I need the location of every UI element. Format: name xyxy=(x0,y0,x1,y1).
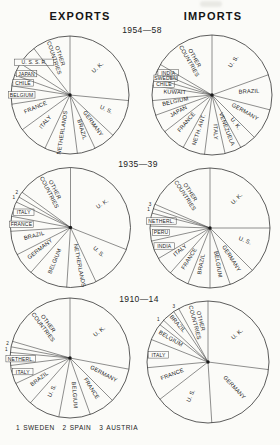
slice-3: 3 xyxy=(149,202,152,207)
slice-label: FRANCE xyxy=(83,376,101,400)
legend-item-austria: 3AUSTRIA xyxy=(99,424,138,431)
slice-kuwait: KUWAIT xyxy=(163,88,186,95)
slice-label: CHILE xyxy=(156,81,172,87)
slice-germany: GERMANY xyxy=(222,374,247,400)
slice-label: U. K. xyxy=(95,197,110,210)
slice-label: U. K. xyxy=(230,192,244,206)
legend-num: 2 xyxy=(63,424,67,431)
slice-othercountries: OTHERCOUNTRIES xyxy=(178,41,206,77)
slice-label: GERMANY xyxy=(222,374,247,400)
slice-label: U. S. xyxy=(185,388,196,403)
legend-label: SPAIN xyxy=(70,424,92,431)
slice-germany: GERMANY xyxy=(89,364,118,383)
slice-boundary-line xyxy=(208,362,269,370)
pie-imports-3: U. K.U. S.GERMANYBELGIUMBRAZILFRANCEITAL… xyxy=(146,168,270,288)
pie-exports-0: U. K.U. S.GERMANYBRAZILNETHERLANDSITALYF… xyxy=(8,36,129,155)
slice-2: 2 xyxy=(15,190,18,195)
numbered-slice-label: 1 xyxy=(5,347,8,352)
slice-label: OTHERCOUNTRIES xyxy=(30,308,61,343)
slice-belgium: BELGIUM xyxy=(158,329,184,347)
slice-italy: ITALY xyxy=(14,209,35,215)
slice-othercountries: OTHERCOUNTRIES xyxy=(39,173,66,210)
slice-label: NETHERLANDS xyxy=(56,110,69,154)
slice-label: NETHERL. xyxy=(148,218,174,224)
slice-label: OTHERCOUNTRIES xyxy=(46,38,69,75)
slice-boundary-line xyxy=(205,95,213,155)
slice-label: ITALY xyxy=(152,352,166,358)
slice-label: FRANCE xyxy=(160,367,185,382)
slice-label: U. S. xyxy=(99,104,114,115)
pie-center-dot xyxy=(68,93,71,96)
slice-boundary-line xyxy=(70,95,129,101)
slice-brazil: BRAZIL xyxy=(76,119,88,141)
slice-othercountries: OTHERCOUNTRIES xyxy=(46,38,69,75)
slice-label: ITALY xyxy=(212,124,219,140)
slice-netherlands: NETHERLANDS xyxy=(73,243,87,287)
pie-charts-canvas: U. K.U. S.GERMANYBRAZILNETHERLANDSITALYF… xyxy=(0,0,280,445)
slice-label: NETHERL. xyxy=(8,356,34,362)
slice-uk: U. K. xyxy=(90,60,104,74)
slice-boundary-line xyxy=(150,226,210,228)
slice-label: BRAZIL xyxy=(169,314,187,334)
slice-uk: U. K. xyxy=(230,192,244,206)
slice-india: INDIA xyxy=(154,243,175,249)
slice-belgium: BELGIUM xyxy=(213,251,224,278)
slice-3: 3 xyxy=(173,304,176,309)
slice-label: FRANCE xyxy=(11,221,33,227)
slice-label: OTHERCOUNTRIES xyxy=(188,303,208,340)
slice-uk: U. K. xyxy=(95,197,110,210)
slice-uk: U. K. xyxy=(229,116,242,131)
legend-label: SWEDEN xyxy=(23,424,55,431)
numbered-slice-label: 1 xyxy=(157,317,160,322)
slice-germany: GERMANY xyxy=(26,237,53,260)
slice-othercountries: OTHERCOUNTRIES xyxy=(188,303,208,340)
pie-imports-5: U. K.GERMANYU. S.FRANCEITALYBELGIUM1BRAZ… xyxy=(147,301,269,423)
slice-label: INDIA xyxy=(157,243,172,249)
slice-netherl: NETHERL. xyxy=(146,218,176,224)
slice-label: OTHERCOUNTRIES xyxy=(178,41,206,77)
legend-num: 1 xyxy=(16,424,20,431)
slice-boundary-line xyxy=(59,358,70,417)
slice-japan: JAPAN xyxy=(16,70,37,76)
pie-center-dot xyxy=(69,226,72,229)
pie-exports-2: U. K.U. S.NETHERLANDSBELGIUMGERMANYBRAZI… xyxy=(10,168,131,288)
numbered-slice-label: 1 xyxy=(147,207,150,212)
slice-italy: ITALY xyxy=(38,114,53,130)
slice-label: BELGIUM xyxy=(158,329,184,347)
slice-peru: PERU xyxy=(152,229,169,235)
numbered-slice-label: 3 xyxy=(173,304,176,309)
legend-item-spain: 2SPAIN xyxy=(63,424,92,431)
slice-label: PERU xyxy=(154,229,169,235)
footnote-legend: 1SWEDEN 2SPAIN 3AUSTRIA xyxy=(16,424,138,431)
slice-label: BRAZIL xyxy=(239,88,260,95)
slice-label: KUWAIT xyxy=(163,88,186,95)
slice-label: ITALY xyxy=(17,209,31,215)
pie-exports-4: U. K.GERMANYFRANCEBELGIUMU. S.BRAZILITAL… xyxy=(5,298,130,418)
pie-center-dot xyxy=(68,356,71,359)
slice-label: BRAZIL xyxy=(23,230,45,241)
slice-brazil: BRAZIL xyxy=(169,314,187,334)
slice-label: ITALY xyxy=(38,114,53,130)
slice-label: U. K. xyxy=(90,60,104,74)
slice-label: U. K. xyxy=(230,327,244,341)
slice-label: CHILE xyxy=(15,80,31,86)
slice-label: BELGIUM xyxy=(213,251,224,278)
slice-label: OTHERCOUNTRIES xyxy=(39,173,66,210)
slice-france: FRANCE xyxy=(160,367,185,382)
slice-label: GERMANY xyxy=(89,364,118,383)
numbered-slice-label: 2 xyxy=(15,190,18,195)
trade-pie-charts-figure: EXPORTS IMPORTS 1954—58 1935—39 1910—14 … xyxy=(0,0,280,445)
slice-france: FRANCE xyxy=(83,376,101,400)
slice-italy: ITALY xyxy=(212,124,219,140)
slice-label: U. S. xyxy=(46,383,57,398)
slice-1: 1 xyxy=(157,317,160,322)
slice-label: BRAZIL xyxy=(196,253,206,275)
slice-label: U. S. xyxy=(227,54,240,69)
slice-italy: ITALY xyxy=(13,368,34,374)
slice-othercountries: OTHERCOUNTRIES xyxy=(30,308,61,343)
numbered-slice-label: 2 xyxy=(6,341,9,346)
slice-us: U. S. xyxy=(92,245,106,259)
slice-1: 1 xyxy=(5,347,8,352)
pie-center-dot xyxy=(210,93,213,96)
slice-label: U. S. xyxy=(92,245,106,259)
